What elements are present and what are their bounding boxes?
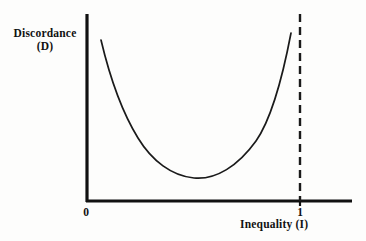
- x-axis-label: Inequality (I): [240, 218, 308, 231]
- y-axis-label-line2: (D): [8, 40, 82, 53]
- y-axis-label-line1: Discordance: [14, 27, 77, 39]
- discordance-inequality-figure: Discordance (D) Inequality (I) 0 1: [0, 0, 366, 241]
- x-tick-label-zero: 0: [78, 206, 94, 219]
- discordance-curve: [101, 33, 291, 178]
- x-tick-label-one: 1: [292, 206, 308, 219]
- y-axis-label: Discordance (D): [8, 27, 82, 53]
